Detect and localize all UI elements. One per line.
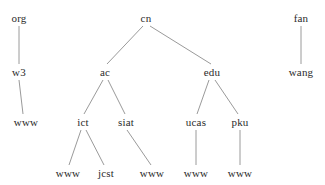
tree-edge-layer [0, 0, 325, 185]
tree-edge-cn-edu [150, 26, 211, 64]
tree-node-ucaswww: www [184, 167, 208, 179]
tree-node-ict: ict [77, 116, 89, 128]
tree-node-org: org [11, 12, 26, 24]
tree-edge-ac-ict [84, 80, 103, 114]
tree-edge-siat-siatwww [127, 130, 151, 165]
tree-edge-edu-pku [215, 80, 238, 114]
tree-node-cn: cn [141, 12, 152, 24]
tree-node-ac: ac [100, 66, 110, 78]
tree-diagram-canvas: orgcnfanw3aceduwangwwwictsiatucaspkuwwwj… [0, 0, 325, 185]
tree-node-pku: pku [231, 116, 248, 128]
tree-node-siatwww: www [140, 167, 164, 179]
tree-node-jcst: jcst [98, 167, 114, 179]
tree-node-siat: siat [118, 116, 134, 128]
tree-edge-ict-ictwww [69, 130, 81, 165]
tree-node-w3: w3 [12, 66, 26, 78]
tree-node-ucas: ucas [186, 116, 206, 128]
tree-node-pkuwww: www [228, 167, 252, 179]
tree-node-ictwww: www [56, 167, 80, 179]
tree-node-wang: wang [289, 66, 314, 78]
tree-edge-edu-ucas [197, 80, 209, 114]
tree-edge-cn-ac [107, 26, 143, 64]
tree-edge-ict-jcst [86, 130, 104, 165]
tree-node-edu: edu [204, 66, 220, 78]
tree-node-w3www: www [14, 116, 38, 128]
tree-edge-w3-w3www [19, 80, 23, 114]
tree-node-fan: fan [294, 12, 309, 24]
tree-edge-ac-siat [108, 80, 125, 114]
